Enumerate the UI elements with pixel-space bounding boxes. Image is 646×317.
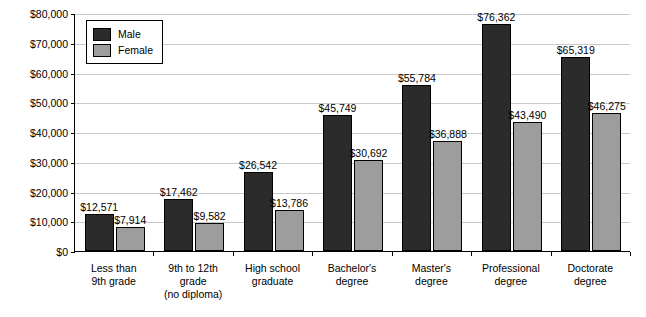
y-axis-tick-label: $60,000: [4, 69, 68, 79]
y-axis-tick-label: $40,000: [4, 128, 68, 138]
bar-value-label: $46,275: [588, 101, 626, 112]
y-axis-tick-mark: [71, 222, 75, 223]
bar-value-label: $17,462: [160, 187, 198, 198]
x-axis-tick-mark: [233, 252, 234, 256]
bar-group: $55,784$36,888: [393, 85, 472, 251]
x-axis-category-label: Less than9th grade: [74, 262, 153, 288]
bar-female: $43,490: [513, 122, 542, 251]
y-axis-tick-mark: [71, 14, 75, 15]
bar-value-label: $13,786: [270, 198, 308, 209]
x-axis-tick-mark: [312, 252, 313, 256]
bar-group: $65,319$46,275: [552, 57, 631, 251]
bar-value-label: $12,571: [80, 202, 118, 213]
bar-female: $36,888: [433, 141, 462, 251]
earnings-by-education-bar-chart: $12,571$7,914$17,462$9,582$26,542$13,786…: [0, 0, 646, 317]
bar-group: $26,542$13,786: [234, 172, 313, 251]
x-axis-category-label: Master'sdegree: [392, 262, 471, 288]
y-axis-tick-mark: [71, 44, 75, 45]
bar-female: $9,582: [195, 223, 224, 252]
bar-male: $12,571: [85, 214, 114, 251]
bar-value-label: $26,542: [239, 160, 277, 171]
x-axis-tick-mark: [471, 252, 472, 256]
bar-value-label: $65,319: [557, 45, 595, 56]
x-axis-tick-mark: [153, 252, 154, 256]
y-axis-tick-label: $80,000: [4, 9, 68, 19]
bar-value-label: $55,784: [398, 73, 436, 84]
x-axis-tick-mark: [630, 252, 631, 256]
x-axis-category-label: Bachelor'sdegree: [312, 262, 391, 288]
bar-group: $45,749$30,692: [313, 115, 392, 251]
x-axis-category-label: Professionaldegree: [471, 262, 550, 288]
legend-swatch-male-icon: [93, 28, 111, 41]
x-axis-tick-mark: [551, 252, 552, 256]
y-axis-tick-label: $0: [4, 247, 68, 257]
bar-value-label: $9,582: [194, 211, 226, 222]
legend-item-male: Male: [93, 26, 153, 42]
bar-female: $30,692: [354, 160, 383, 251]
y-axis-tick-mark: [71, 163, 75, 164]
bar-male: $65,319: [561, 57, 590, 251]
bar-female: $7,914: [116, 227, 145, 251]
bar-male: $45,749: [323, 115, 352, 251]
legend-label-male: Male: [118, 29, 141, 40]
bar-female: $13,786: [275, 210, 304, 251]
y-axis-tick-mark: [71, 74, 75, 75]
y-axis-tick-label: $10,000: [4, 217, 68, 227]
x-axis-tick-mark: [392, 252, 393, 256]
y-axis-tick-mark: [71, 252, 75, 253]
x-axis-category-label: 9th to 12thgrade(no diploma): [153, 262, 232, 301]
bar-female: $46,275: [592, 113, 621, 251]
bar-value-label: $45,749: [319, 103, 357, 114]
legend-label-female: Female: [118, 45, 153, 56]
x-axis-category-label: High schoolgraduate: [233, 262, 312, 288]
y-axis-tick-label: $70,000: [4, 39, 68, 49]
y-axis-tick-label: $30,000: [4, 158, 68, 168]
bar-male: $17,462: [164, 199, 193, 251]
bar-value-label: $36,888: [429, 129, 467, 140]
bar-value-label: $43,490: [508, 110, 546, 121]
bar-group: $76,362$43,490: [472, 24, 551, 251]
y-axis-tick-label: $50,000: [4, 98, 68, 108]
legend-item-female: Female: [93, 42, 153, 58]
bar-male: $76,362: [482, 24, 511, 251]
bar-group: $17,462$9,582: [154, 199, 233, 251]
bar-male: $26,542: [244, 172, 273, 251]
y-axis-tick-mark: [71, 103, 75, 104]
legend-swatch-female-icon: [93, 44, 111, 57]
bar-value-label: $30,692: [350, 148, 388, 159]
bar-group: $12,571$7,914: [75, 214, 154, 251]
gridline: [75, 14, 630, 15]
x-axis-category-labels: Less than9th grade9th to 12thgrade(no di…: [74, 256, 630, 314]
y-axis-tick-label: $20,000: [4, 188, 68, 198]
y-axis-tick-mark: [71, 133, 75, 134]
bar-value-label: $7,914: [114, 215, 146, 226]
bar-value-label: $76,362: [477, 12, 515, 23]
chart-legend: Male Female: [86, 20, 163, 64]
y-axis-tick-mark: [71, 193, 75, 194]
bar-male: $55,784: [402, 85, 431, 251]
x-axis-category-label: Doctoratedegree: [551, 262, 630, 288]
